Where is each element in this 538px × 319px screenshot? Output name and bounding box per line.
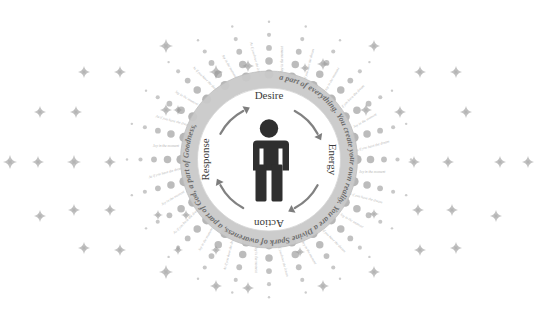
- arrow-response-to-desire: [220, 106, 249, 133]
- human-figure: [253, 119, 289, 201]
- mandala-canvas: Joy in the momentAs if you have the drea…: [0, 0, 538, 319]
- cycle-step-response: Response: [199, 138, 211, 180]
- cycle-core-layer: DesireEnergyActionResponse: [0, 0, 538, 319]
- cycle-step-action: Action: [254, 218, 284, 230]
- arrow-energy-to-action: [288, 185, 317, 212]
- cycle-step-energy: Energy: [327, 144, 339, 176]
- cycle-step-desire: Desire: [255, 89, 284, 101]
- arrow-desire-to-energy: [295, 111, 322, 140]
- arrow-action-to-response: [216, 179, 243, 208]
